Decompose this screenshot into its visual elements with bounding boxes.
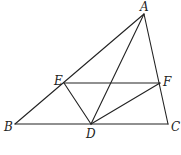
label-A: A (139, 0, 149, 14)
label-B: B (3, 120, 13, 134)
label-C: C (171, 120, 180, 134)
segment-AD (91, 14, 144, 124)
point-labels: A B C D E F (3, 0, 180, 141)
segment-ED (64, 83, 91, 124)
label-E: E (53, 74, 63, 88)
label-D: D (85, 127, 96, 141)
label-F: F (162, 75, 172, 89)
segments (15, 14, 168, 124)
segment-AC (144, 14, 168, 124)
triangle-diagram: A B C D E F (0, 0, 181, 155)
